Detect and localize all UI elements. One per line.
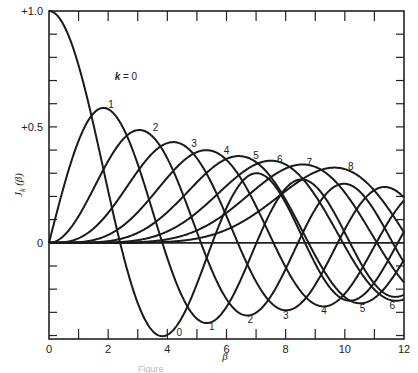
curve-label: 6 [277, 154, 283, 165]
x-tick-label: 2 [105, 343, 111, 355]
x-tick-label: 8 [283, 343, 289, 355]
bessel-function-chart: 024681012+1.0+0.50 k = 0123456780123456 … [0, 0, 418, 373]
y-axis-title: Jk (β) [12, 173, 27, 197]
curve-label: 5 [360, 303, 366, 314]
curve-label: 2 [247, 314, 253, 325]
curve-label: 7 [307, 157, 313, 168]
plot-border [49, 11, 404, 339]
curve-label: 1 [108, 99, 114, 110]
curve-label: 4 [321, 305, 327, 316]
x-tick-label: 10 [339, 343, 351, 355]
curve-label: 6 [389, 300, 395, 311]
curve-label: 3 [191, 138, 197, 149]
x-tick-label: 0 [46, 343, 52, 355]
figure-caption: Figure [138, 364, 164, 373]
curve-label: 2 [153, 122, 159, 133]
curve-label: 4 [224, 145, 230, 156]
y-tick-label: +1.0 [21, 5, 43, 17]
bessel-curves [49, 11, 404, 336]
curve-label: 8 [348, 161, 354, 172]
x-tick-label: 12 [398, 343, 410, 355]
x-axis-title: β [221, 350, 228, 362]
curve-label: 5 [253, 150, 259, 161]
curve-label: 3 [283, 310, 289, 321]
curve-label: k = 0 [115, 71, 138, 82]
curve-label: 0 [176, 327, 182, 338]
curve-k-8 [49, 168, 404, 243]
y-tick-label: +0.5 [21, 121, 43, 133]
x-tick-label: 4 [164, 343, 170, 355]
k-value: = 0 [120, 71, 137, 82]
curve-label: 1 [209, 321, 215, 332]
y-axis-title-arg: (β) [12, 173, 25, 189]
plot-frame [49, 11, 404, 339]
y-tick-label: 0 [37, 237, 43, 249]
curve-k-7 [49, 164, 404, 282]
